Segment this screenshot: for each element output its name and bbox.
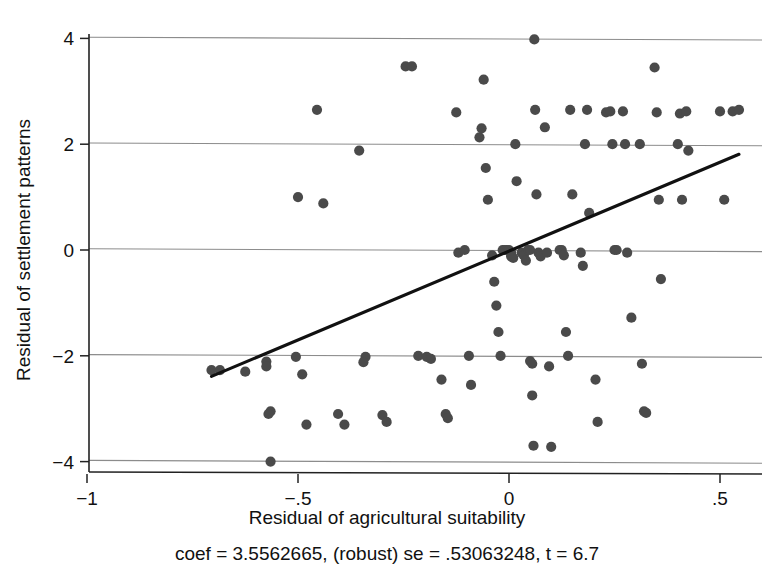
scatter-point	[654, 195, 664, 205]
scatter-point	[312, 105, 322, 115]
scatter-point	[495, 351, 505, 361]
axis-frame	[89, 34, 762, 474]
scatter-point	[563, 351, 573, 361]
scatter-point	[483, 195, 493, 205]
scatter-point	[531, 189, 541, 199]
scatter-point	[677, 195, 687, 205]
scatter-point	[464, 351, 474, 361]
x-axis-title: Residual of agricultural suitability	[249, 507, 526, 528]
scatter-point	[719, 195, 729, 205]
scatter-point	[565, 105, 575, 115]
tick-labels: −4−2024−1−.50.5	[52, 28, 728, 509]
scatter-point	[530, 105, 540, 115]
y-tick-label-2: 2	[63, 134, 74, 155]
scatter-point	[339, 419, 349, 429]
scatter-plot-figure: −4−2024−1−.50.5 Residual of agricultural…	[0, 0, 774, 586]
scatter-point	[263, 409, 273, 419]
scatter-point	[511, 176, 521, 186]
scatter-point	[318, 198, 328, 208]
scatter-point	[481, 163, 491, 173]
gridlines	[89, 37, 762, 463]
scatter-point	[622, 248, 632, 258]
scatter-point	[491, 300, 501, 310]
scatter-point	[508, 253, 518, 263]
scatter-point	[546, 442, 556, 452]
scatter-point	[358, 357, 368, 367]
scatter-point	[605, 106, 615, 116]
scatter-point	[673, 139, 683, 149]
scatter-point	[426, 354, 436, 364]
scatter-point	[576, 248, 586, 258]
scatter-point	[637, 359, 647, 369]
scatter-point	[582, 105, 592, 115]
scatter-point	[407, 61, 417, 71]
scatter-point	[607, 139, 617, 149]
fit-line	[211, 154, 739, 376]
scatter-point	[240, 367, 250, 377]
x-tick-label--0.5: −.5	[285, 488, 312, 509]
scatter-point	[354, 145, 364, 155]
y-axis-title: Residual of settlement patterns	[13, 119, 34, 381]
scatter-point	[460, 245, 470, 255]
scatter-point	[542, 248, 552, 258]
gridline-y-2	[89, 143, 762, 146]
scatter-point	[715, 106, 725, 116]
scatter-point	[265, 457, 275, 467]
scatter-point	[620, 139, 630, 149]
scatter-point	[382, 417, 392, 427]
x-tick-label-0: 0	[504, 488, 515, 509]
scatter-point	[635, 139, 645, 149]
y-tick-label--4: −4	[52, 452, 74, 473]
scatter-point	[476, 123, 486, 133]
scatter-point	[612, 245, 622, 255]
gridline-y--4	[89, 460, 762, 463]
axis-ticks	[80, 38, 720, 483]
scatter-point	[261, 361, 271, 371]
scatter-point	[626, 313, 636, 323]
scatter-point	[451, 107, 461, 117]
scatter-point	[301, 419, 311, 429]
scatter-point	[443, 413, 453, 423]
y-tick-label--2: −2	[52, 346, 74, 367]
scatter-point	[479, 75, 489, 85]
scatter-point	[681, 106, 691, 116]
x-tick-label-0.5: .5	[712, 488, 728, 509]
regression-caption: coef = 3.5562665, (robust) se = .5306324…	[175, 543, 599, 564]
x-axis-spine	[89, 472, 762, 474]
scatter-point	[641, 408, 651, 418]
scatter-point	[618, 106, 628, 116]
scatter-point	[656, 274, 666, 284]
scatter-point	[510, 139, 520, 149]
scatter-point	[561, 327, 571, 337]
scatter-point	[540, 122, 550, 132]
scatter-point	[734, 105, 744, 115]
scatter-point	[333, 409, 343, 419]
scatter-point	[593, 417, 603, 427]
scatter-point	[649, 62, 659, 72]
scatter-point	[293, 192, 303, 202]
scatter-point	[578, 261, 588, 271]
scatter-point	[527, 390, 537, 400]
x-tick-label--1: −1	[76, 488, 98, 509]
scatter-point	[683, 145, 693, 155]
scatter-point	[466, 380, 476, 390]
y-tick-label-0: 0	[63, 240, 74, 261]
regression-fit-line	[211, 154, 739, 376]
scatter-point	[652, 107, 662, 117]
scatter-point	[590, 375, 600, 385]
y-tick-label-4: 4	[63, 28, 74, 49]
scatter-point	[527, 359, 537, 369]
scatter-point	[528, 441, 538, 451]
scatter-point	[436, 375, 446, 385]
scatter-point	[529, 34, 539, 44]
scatter-point	[297, 369, 307, 379]
scatter-point	[493, 327, 503, 337]
scatter-point	[544, 361, 554, 371]
scatter-point	[580, 139, 590, 149]
scatter-point	[567, 189, 577, 199]
gridline-y-0	[89, 249, 762, 252]
scatter-point	[559, 250, 569, 260]
scatter-point	[489, 277, 499, 287]
scatter-point	[474, 132, 484, 142]
gridline-y-4	[89, 37, 762, 40]
